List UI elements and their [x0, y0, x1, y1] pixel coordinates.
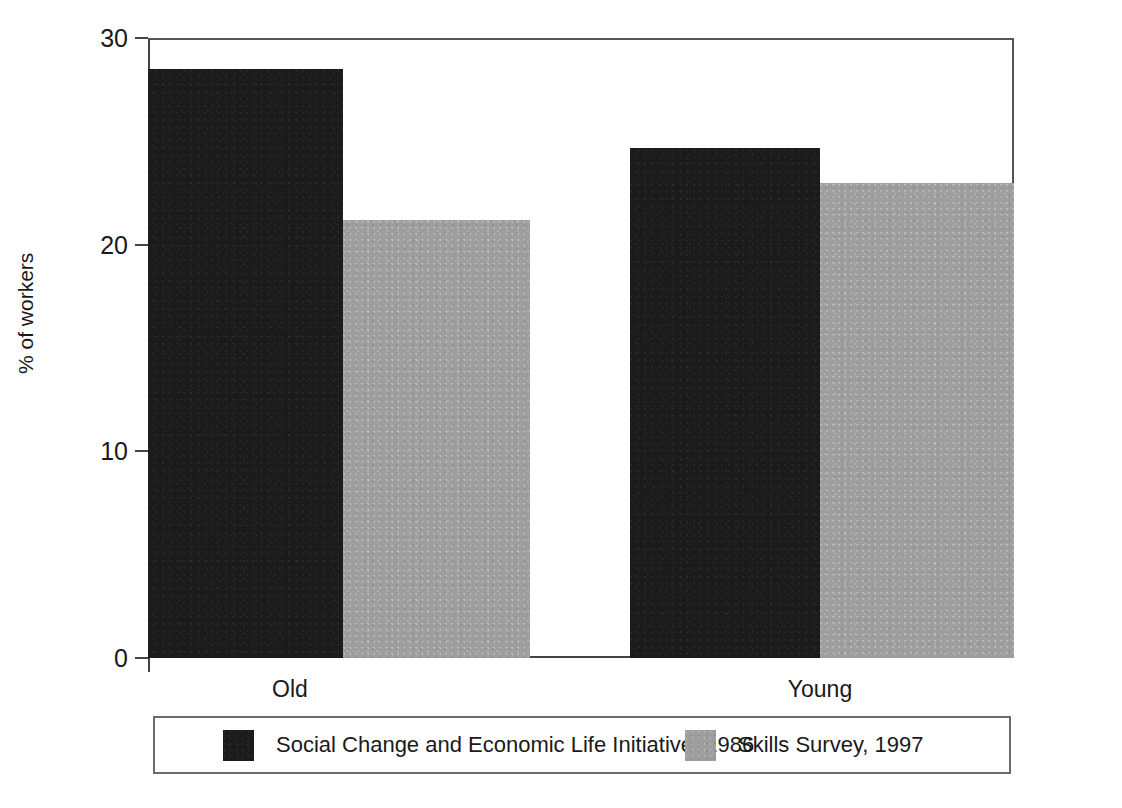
bar-chart-figure: 0 10 20 30 % of workers Old Young Social… — [0, 0, 1122, 808]
y-tick-label: 10 — [100, 436, 128, 466]
y-tick-mark — [135, 37, 148, 39]
x-axis-origin-tick — [148, 658, 150, 672]
x-tick-label-young: Young — [730, 672, 910, 706]
bar-old-scel-1986 — [148, 69, 343, 658]
y-tick-mark — [135, 244, 148, 246]
y-tick-label: 0 — [114, 643, 128, 673]
legend-entry-scel-1986: Social Change and Economic Life Initiati… — [223, 730, 754, 761]
legend-label: Skills Survey, 1997 — [738, 731, 923, 759]
y-tick-mark — [135, 657, 148, 659]
legend-dark-swatch-icon — [223, 730, 254, 761]
bar-young-skills-1997 — [820, 183, 1014, 658]
legend-entry-skills-1997: Skills Survey, 1997 — [685, 730, 923, 761]
legend-items: Social Change and Economic Life Initiati… — [155, 718, 1009, 772]
legend: Social Change and Economic Life Initiati… — [153, 716, 1011, 774]
y-axis-title: % of workers — [14, 174, 38, 374]
bar-young-scel-1986 — [630, 148, 820, 659]
legend-label: Social Change and Economic Life Initiati… — [276, 731, 754, 759]
y-tick-mark — [135, 450, 148, 452]
y-tick-label: 30 — [100, 23, 128, 53]
bars-layer — [148, 38, 1014, 658]
bar-old-skills-1997 — [343, 220, 530, 658]
legend-light-swatch-icon — [685, 730, 716, 761]
x-tick-label-old: Old — [200, 672, 380, 706]
y-tick-label: 20 — [100, 230, 128, 260]
